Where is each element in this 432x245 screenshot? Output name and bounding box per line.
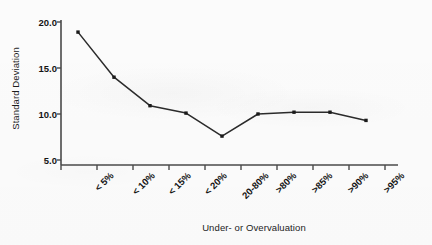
data-point-marker — [292, 111, 295, 114]
data-point-marker — [148, 104, 151, 107]
data-point-marker — [220, 134, 223, 137]
data-point-marker — [364, 119, 367, 122]
x-axis-title: Under- or Overvaluation — [0, 222, 432, 233]
data-point-marker — [328, 111, 331, 114]
axis-lines — [61, 20, 398, 165]
data-point-marker — [112, 76, 115, 79]
data-point-marker — [256, 112, 259, 115]
data-point-marker — [76, 30, 79, 33]
data-series-line — [78, 32, 366, 136]
data-point-marker — [184, 111, 187, 114]
plot-area — [0, 0, 432, 245]
chart-container: Standard Deviation 20.015.010.05.0 < 5%<… — [0, 0, 432, 245]
data-series-markers — [76, 30, 367, 137]
